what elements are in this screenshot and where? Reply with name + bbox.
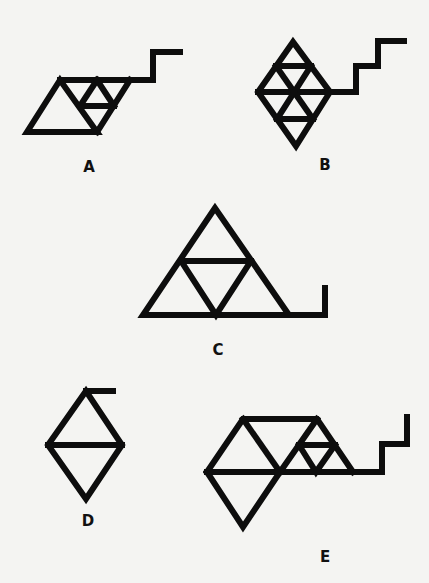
label-a: A (83, 158, 95, 176)
figure-e-diag-left (243, 419, 280, 472)
figure-c (143, 208, 325, 315)
figure-a (27, 52, 180, 132)
figure-a-top-line-step (60, 52, 180, 80)
figure-b (258, 41, 404, 146)
figure-e-small-inner-triangle (299, 445, 335, 472)
figure-c-inner-triangle (181, 261, 251, 315)
figure-a-inner-line-2 (97, 80, 114, 106)
figure-b-stair (330, 41, 404, 92)
figures-canvas (0, 0, 429, 583)
label-b: B (319, 156, 330, 174)
label-e: E (320, 548, 330, 566)
figure-a-inner-line-1 (80, 80, 97, 106)
figure-c-hook (289, 288, 325, 315)
label-c: C (212, 341, 223, 359)
label-d: D (82, 512, 94, 530)
figure-d (48, 391, 122, 499)
figure-e-bottom-triangle (207, 472, 280, 527)
figure-e (207, 417, 407, 527)
